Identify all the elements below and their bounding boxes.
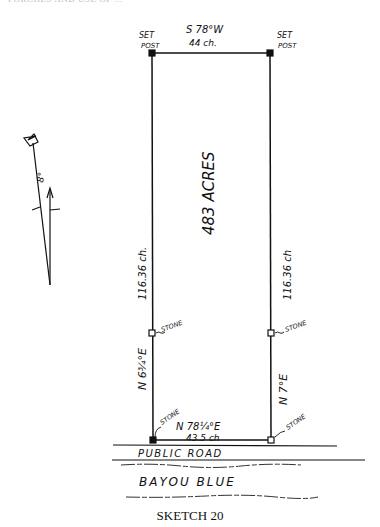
north-angle-label: 8° <box>35 172 47 184</box>
right-distance-label: 116.36 ch <box>282 250 293 300</box>
set-post-label-left-1: SET <box>139 31 155 40</box>
stone-marker-bottom-right <box>268 437 274 443</box>
stone-label-right-mid: STONE <box>284 318 308 333</box>
stone-marker-right-mid <box>268 330 274 336</box>
survey-sketch: 8° SET POST SET POST S 78°W 44 ch. 483 A… <box>0 0 380 527</box>
stone-label-left-mid: STONE <box>160 318 184 333</box>
right-bearing-label: N 7°E <box>277 374 290 405</box>
stone-marker-left-mid <box>149 330 155 336</box>
top-distance-label: 44 ch. <box>189 38 217 48</box>
stone-label-bottom-right: STONE <box>285 412 308 432</box>
north-arrow-icon <box>24 134 60 285</box>
bottom-distance-label: 43.5 ch <box>186 433 220 443</box>
left-distance-label: 116.36 ch. <box>137 247 148 300</box>
sketch-caption: SKETCH 20 <box>0 508 380 524</box>
waterway-label: BAYOU BLUE <box>139 475 236 489</box>
stone-marker-bottom-left <box>150 437 156 443</box>
top-bearing-label: S 78°W <box>186 24 224 35</box>
set-post-label-left-2: POST <box>141 42 160 50</box>
set-post-label-right-1: SET <box>277 31 293 40</box>
area-label: 483 ACRES <box>200 151 218 235</box>
parcel-boundary <box>152 53 271 440</box>
set-post-marker-top-left <box>149 50 155 56</box>
corner-markers <box>149 50 274 443</box>
set-post-marker-top-right <box>267 50 273 56</box>
set-post-label-right-2: POST <box>278 42 297 50</box>
bottom-bearing-label: N 78¼°E <box>176 421 221 432</box>
left-bearing-label: N 6¾°E <box>136 348 149 390</box>
road-label: PUBLIC ROAD <box>138 448 223 459</box>
